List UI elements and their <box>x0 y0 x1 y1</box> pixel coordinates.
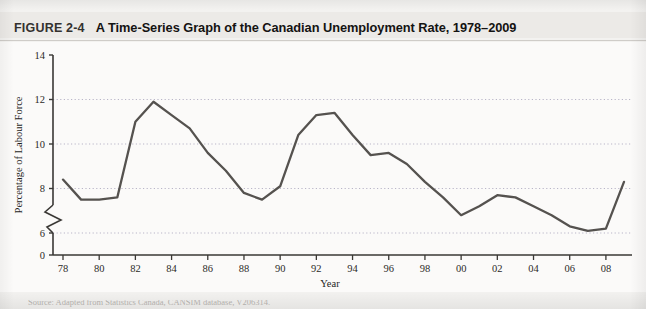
y-tick-label-10: 10 <box>35 139 46 150</box>
figure-number-label: FIGURE 2-4 <box>14 21 85 35</box>
y-axis-break-icon <box>45 205 61 233</box>
x-tick-label-78: 78 <box>58 263 69 274</box>
unemployment-line-chart: 068101214 788082848688909294969800020406… <box>0 42 646 292</box>
x-tick-label-02: 02 <box>492 263 503 274</box>
x-axis-title: Year <box>320 278 340 289</box>
figure-caption: A Time-Series Graph of the Canadian Unem… <box>96 20 517 35</box>
x-tick-label-90: 90 <box>275 263 286 274</box>
y-tick-label-0: 0 <box>40 250 45 261</box>
y-tick-group: 068101214 <box>35 50 54 261</box>
y-tick-label-12: 12 <box>35 94 46 105</box>
x-tick-group: 78808284868890929496980002040608 <box>58 255 611 274</box>
source-note: Source: Adapted from Statistics Canada, … <box>28 300 270 307</box>
figure-title-row: FIGURE 2-4A Time-Series Graph of the Can… <box>14 18 516 36</box>
x-tick-label-94: 94 <box>347 263 358 274</box>
x-tick-label-82: 82 <box>130 263 141 274</box>
series-line-unemployment-rate <box>63 102 624 231</box>
x-tick-label-84: 84 <box>166 263 177 274</box>
x-tick-label-96: 96 <box>383 263 394 274</box>
header-divider <box>0 40 646 41</box>
x-tick-label-08: 08 <box>601 263 612 274</box>
y-axis-title: Percentage of Labour Force <box>13 96 24 213</box>
x-tick-label-80: 80 <box>94 263 105 274</box>
y-tick-label-8: 8 <box>40 183 45 194</box>
x-tick-label-86: 86 <box>203 263 214 274</box>
x-tick-label-04: 04 <box>528 263 539 274</box>
x-tick-label-00: 00 <box>456 263 467 274</box>
y-tick-label-14: 14 <box>35 50 46 61</box>
y-tick-label-6: 6 <box>40 228 45 239</box>
figure-page: FIGURE 2-4A Time-Series Graph of the Can… <box>0 0 646 309</box>
chart-plot-area: 068101214 788082848688909294969800020406… <box>0 42 646 292</box>
x-tick-label-98: 98 <box>420 263 431 274</box>
x-tick-label-06: 06 <box>564 263 575 274</box>
source-note-strip: Source: Adapted from Statistics Canada, … <box>0 300 646 309</box>
x-tick-label-88: 88 <box>239 263 250 274</box>
x-tick-label-92: 92 <box>311 263 322 274</box>
